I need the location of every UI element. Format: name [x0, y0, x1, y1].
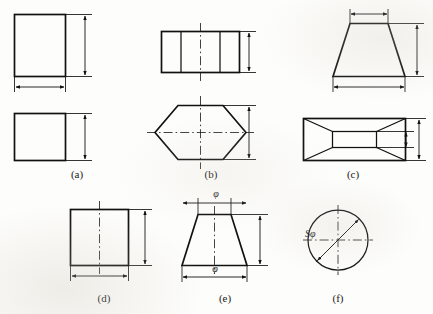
panel-a-front-square: [15, 15, 66, 77]
panel-a-plan-square: [15, 114, 66, 161]
panel-c-rectangular-frustum: [304, 9, 427, 161]
panel-f-sphere-diameter-label: Sφ: [305, 228, 327, 239]
panel-e-phi-lower-label: φ: [207, 263, 223, 274]
caption-a: (a): [63, 168, 91, 180]
caption-d: (d): [90, 292, 118, 304]
panel-b-hexagonal-prism: [147, 23, 256, 169]
figure-plate: .ol { fill: none; stroke: #111111; strok…: [0, 0, 433, 314]
caption-b: (b): [197, 168, 225, 180]
caption-c: (c): [339, 168, 367, 180]
panel-c-plan-diagonal-tl: [304, 119, 333, 132]
panel-c-front-trapezoid: [333, 24, 405, 77]
panel-c-plan-inner-rect: [333, 132, 377, 148]
panel-c-plan-diagonal-tr: [377, 119, 406, 132]
panel-e-cone-frustum: [182, 198, 268, 282]
panel-f-sphere: [303, 205, 373, 275]
caption-f: (f): [324, 292, 352, 304]
panel-c-plan-diagonal-bl: [304, 148, 333, 161]
panel-a-square-prism: [15, 15, 93, 161]
panel-d-cylinder: [71, 201, 153, 281]
caption-e: (e): [211, 292, 239, 304]
panel-e-phi-upper-label: φ: [208, 188, 224, 199]
panel-c-plan-diagonal-br: [377, 148, 406, 161]
